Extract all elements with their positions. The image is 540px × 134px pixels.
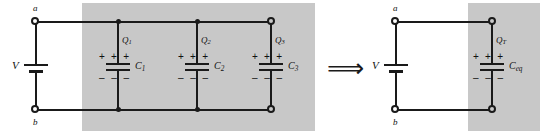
- plus-sign: +: [123, 52, 129, 62]
- branch-1-negative-charges: – – –: [99, 73, 129, 83]
- capacitance-subscript: eq: [516, 65, 523, 73]
- minus-sign: –: [485, 73, 491, 83]
- plus-sign: +: [99, 52, 105, 62]
- plus-sign: +: [497, 52, 503, 62]
- right-terminal-a-node: [391, 17, 399, 25]
- plus-sign: +: [178, 52, 184, 62]
- left-terminal-a-node: [31, 17, 39, 25]
- left-terminal-b-label: b: [33, 118, 38, 127]
- equivalent-branch-negative-charges: – – –: [473, 73, 503, 83]
- plus-sign: +: [264, 52, 270, 62]
- branch-3-negative-charges: – – –: [252, 73, 282, 83]
- equivalent-branch-capacitance-label: Ceq: [509, 61, 522, 73]
- branch-1-capacitor-plate-top: [106, 63, 130, 65]
- left-bottom-rail: [33, 109, 271, 111]
- branch-1-charge-label: Q1: [122, 36, 132, 46]
- left-battery-negative-plate: [29, 70, 43, 73]
- branch-1-capacitance-label: C1: [135, 61, 145, 73]
- capacitance-symbol: C: [509, 60, 516, 71]
- plus-sign: +: [276, 52, 282, 62]
- minus-sign: –: [202, 73, 208, 83]
- minus-sign: –: [99, 73, 105, 83]
- left-top-rail: [33, 21, 271, 23]
- minus-sign: –: [190, 73, 196, 83]
- right-terminal-a-label: a: [393, 4, 398, 13]
- branch-1-capacitor-plate-bottom: [106, 69, 130, 71]
- equivalent-branch-charge-label: QT: [496, 36, 506, 46]
- minus-sign: –: [252, 73, 258, 83]
- branch-2-capacitor-plate-bottom: [185, 69, 209, 71]
- right-battery-positive-plate: [384, 64, 408, 66]
- right-source-label: V: [372, 60, 379, 71]
- capacitance-symbol: C: [288, 60, 295, 71]
- charge-subscript: T: [503, 38, 507, 45]
- charge-subscript: 2: [208, 38, 211, 45]
- left-source-lead-top: [35, 22, 37, 64]
- minus-sign: –: [497, 73, 503, 83]
- right-bottom-rail: [393, 109, 492, 111]
- left-source-label: V: [12, 60, 19, 71]
- figure-capacitors-in-parallel: V a b + + + – – – Q1 C1 + + + – – – Q2: [0, 0, 540, 134]
- branch-3-capacitor-plate-bottom: [259, 69, 283, 71]
- minus-sign: –: [264, 73, 270, 83]
- capacitance-subscript: 1: [142, 65, 146, 73]
- left-terminal-b-node: [31, 105, 39, 113]
- minus-sign: –: [123, 73, 129, 83]
- capacitance-symbol: C: [214, 60, 221, 71]
- minus-sign: –: [276, 73, 282, 83]
- equivalent-capacitor-plate-bottom: [480, 69, 504, 71]
- branch-1-junction-top: [116, 19, 121, 24]
- branch-2-positive-charges: + + +: [178, 52, 208, 62]
- branch-2-negative-charges: – – –: [178, 73, 208, 83]
- branch-3-capacitance-label: C3: [288, 61, 298, 73]
- plus-sign: +: [202, 52, 208, 62]
- minus-sign: –: [178, 73, 184, 83]
- branch-1-positive-charges: + + +: [99, 52, 129, 62]
- capacitance-symbol: C: [135, 60, 142, 71]
- plus-sign: +: [190, 52, 196, 62]
- left-terminal-a-label: a: [33, 4, 38, 13]
- plus-sign: +: [111, 52, 117, 62]
- branch-3-positive-charges: + + +: [252, 52, 282, 62]
- branch-1-junction-bottom: [116, 107, 121, 112]
- branch-2-capacitance-label: C2: [214, 61, 224, 73]
- capacitance-subscript: 2: [221, 65, 225, 73]
- branch-3-node-bottom: [267, 105, 275, 113]
- right-terminal-b-node: [391, 105, 399, 113]
- capacitance-subscript: 3: [295, 65, 299, 73]
- charge-subscript: 3: [282, 38, 285, 45]
- branch-3-capacitor-plate-top: [259, 63, 283, 65]
- plus-sign: +: [485, 52, 491, 62]
- minus-sign: –: [473, 73, 479, 83]
- right-top-rail: [393, 21, 492, 23]
- branch-3-charge-label: Q3: [275, 36, 285, 46]
- equivalent-capacitor-plate-top: [480, 63, 504, 65]
- branch-2-junction-top: [195, 19, 200, 24]
- left-battery-positive-plate: [24, 64, 48, 66]
- minus-sign: –: [111, 73, 117, 83]
- branch-2-charge-label: Q2: [201, 36, 211, 46]
- equivalent-branch-node-bottom: [488, 105, 496, 113]
- plus-sign: +: [473, 52, 479, 62]
- plus-sign: +: [252, 52, 258, 62]
- equivalent-branch-node-top: [488, 17, 496, 25]
- charge-subscript: 1: [129, 38, 132, 45]
- branch-3-node-top: [267, 17, 275, 25]
- equivalent-branch-positive-charges: + + +: [473, 52, 503, 62]
- right-source-lead-top: [395, 22, 397, 64]
- right-terminal-b-label: b: [393, 118, 398, 127]
- branch-2-junction-bottom: [195, 107, 200, 112]
- implies-arrow-icon: ⟹: [327, 55, 364, 81]
- right-battery-negative-plate: [389, 70, 403, 73]
- branch-2-capacitor-plate-top: [185, 63, 209, 65]
